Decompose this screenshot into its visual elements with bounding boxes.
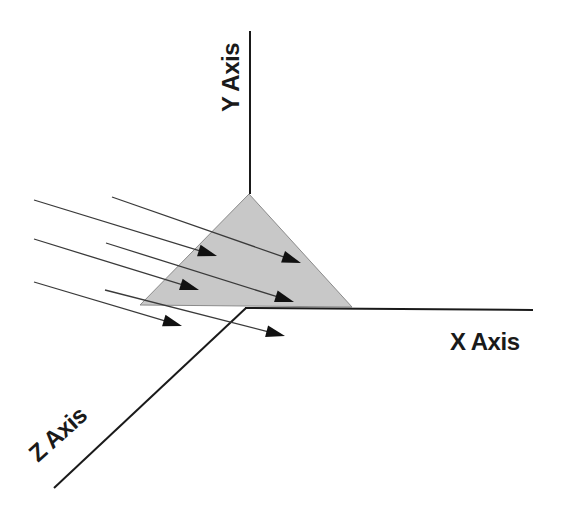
y-axis-label: Y Axis — [217, 43, 244, 112]
x-axis-label: X Axis — [450, 328, 520, 355]
3d-axes-diagram: Y Axis X Axis Z Axis — [0, 0, 563, 517]
